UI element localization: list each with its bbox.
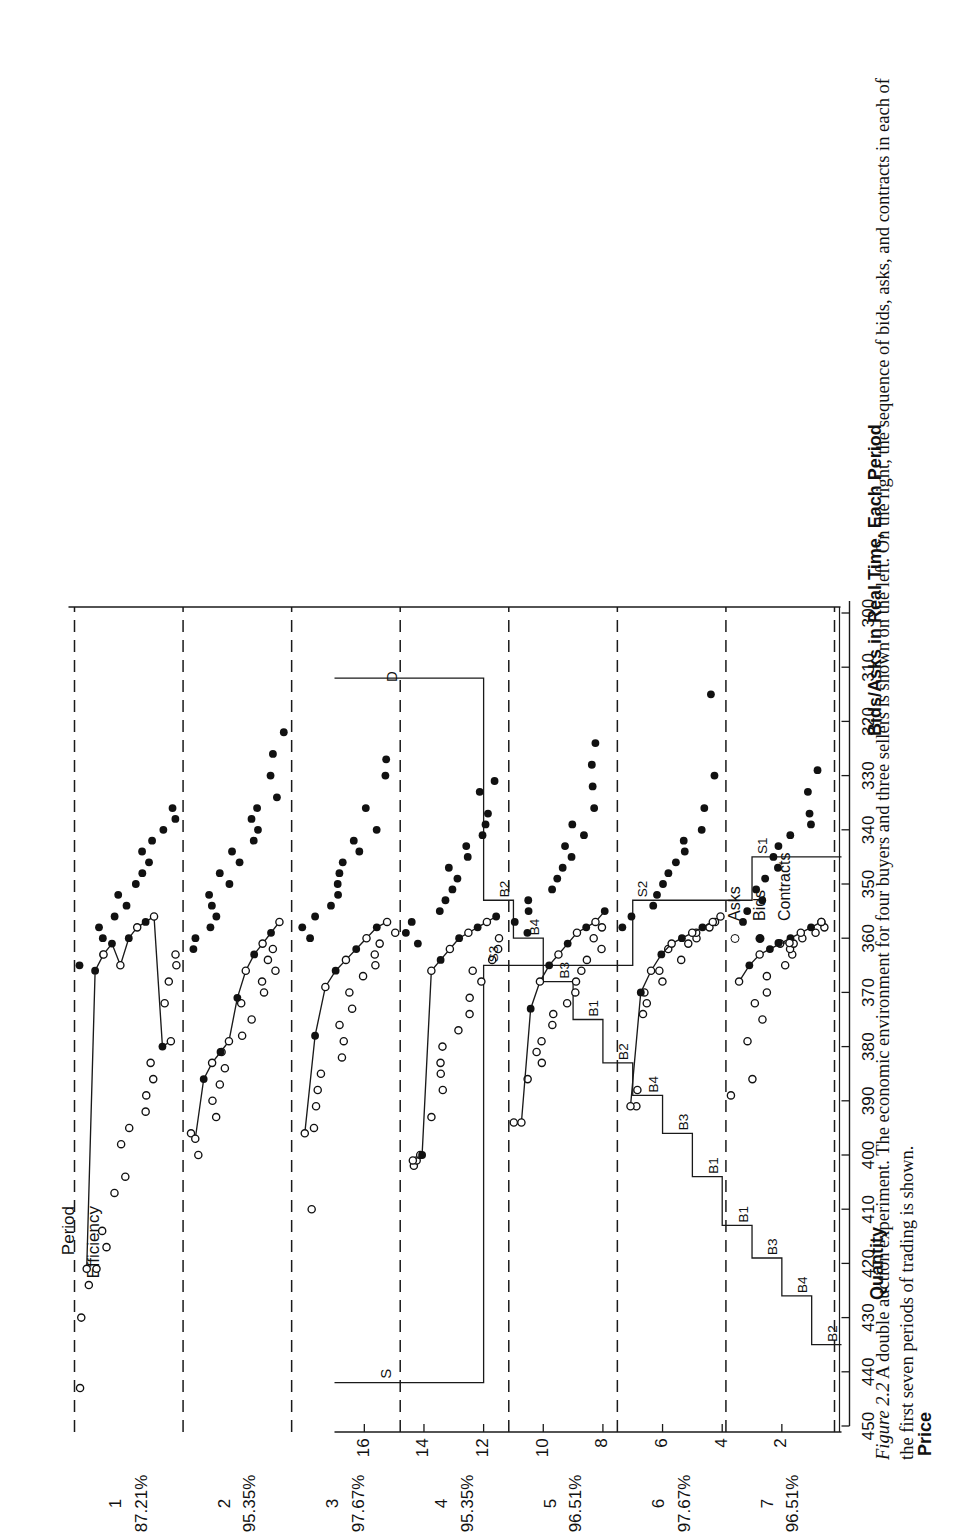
price-tick-label: 360 xyxy=(858,914,878,962)
ask-marker xyxy=(763,973,770,980)
demand-step-label: B3 xyxy=(764,1238,779,1255)
demand-step-label: B2 xyxy=(824,1325,839,1342)
bid-marker xyxy=(381,772,389,780)
contract-marker xyxy=(116,962,123,969)
bid-marker xyxy=(462,842,470,850)
contract-marker xyxy=(158,1043,166,1051)
contract-marker xyxy=(591,918,598,925)
bid-marker xyxy=(680,848,688,856)
contract-marker xyxy=(446,945,453,952)
bid-marker xyxy=(279,728,287,736)
filled-circle-icon xyxy=(755,934,764,943)
ask-marker xyxy=(439,1086,446,1093)
bid-marker xyxy=(707,690,715,698)
bid-marker xyxy=(114,891,122,899)
ask-marker xyxy=(469,967,476,974)
bid-marker xyxy=(138,869,146,877)
contract-marker xyxy=(545,961,553,969)
ask-marker xyxy=(76,1384,83,1391)
bid-marker xyxy=(448,886,456,894)
contract-marker xyxy=(526,1005,534,1013)
demand-step-label: B2 xyxy=(496,881,511,898)
price-tick-label: 350 xyxy=(858,860,878,908)
contract-marker xyxy=(331,967,339,975)
ask-marker xyxy=(171,951,178,958)
bid-marker xyxy=(273,793,281,801)
contract-marker xyxy=(536,978,543,985)
supply-step-label: S3 xyxy=(485,946,500,963)
bid-marker xyxy=(212,913,220,921)
ask-marker xyxy=(571,989,578,996)
ask-marker xyxy=(117,1141,124,1148)
contract-marker xyxy=(554,951,561,958)
price-tick-label: 370 xyxy=(858,968,878,1016)
ask-marker xyxy=(465,1010,472,1017)
bid-marker xyxy=(463,853,471,861)
bid-marker xyxy=(327,902,335,910)
connected-dots-icon xyxy=(774,925,798,947)
ask-marker xyxy=(269,945,276,952)
bid-marker xyxy=(481,820,489,828)
contract-marker xyxy=(582,923,590,931)
ask-marker xyxy=(149,1076,156,1083)
bid-marker xyxy=(524,907,532,915)
price-tick-label: 320 xyxy=(858,697,878,745)
bid-marker xyxy=(553,875,561,883)
ask-marker xyxy=(340,1038,347,1045)
price-tick-label: 310 xyxy=(858,643,878,691)
ask-marker xyxy=(391,929,398,936)
contract-marker xyxy=(250,951,258,959)
quantity-tick-label: 8 xyxy=(591,1438,611,1466)
contract-marker xyxy=(409,1157,416,1164)
bid-marker xyxy=(333,880,341,888)
ask-marker xyxy=(271,967,278,974)
bid-marker xyxy=(349,837,357,845)
ask-marker xyxy=(165,978,172,985)
bid-marker xyxy=(524,896,532,904)
ask-marker xyxy=(125,1124,132,1131)
ask-marker xyxy=(248,1016,255,1023)
quantity-tick-label: 4 xyxy=(711,1438,731,1466)
price-tick-label: 380 xyxy=(858,1023,878,1071)
ask-marker xyxy=(748,1076,755,1083)
contract-marker xyxy=(208,1059,215,1066)
bid-marker xyxy=(191,934,199,942)
ask-marker xyxy=(548,1021,555,1028)
bid-marker xyxy=(247,815,255,823)
ask-marker xyxy=(194,1151,201,1158)
bid-marker xyxy=(761,875,769,883)
ask-marker xyxy=(549,1010,556,1017)
ask-marker xyxy=(590,935,597,942)
ask-marker xyxy=(208,1097,215,1104)
bid-marker xyxy=(490,777,498,785)
bid-marker xyxy=(558,864,566,872)
bid-marker xyxy=(580,831,588,839)
bid-marker xyxy=(110,913,118,921)
bid-marker xyxy=(653,891,661,899)
ask-marker xyxy=(212,1113,219,1120)
ask-marker xyxy=(655,967,662,974)
bid-marker xyxy=(627,913,635,921)
ask-marker xyxy=(308,1206,315,1213)
bid-marker xyxy=(235,858,243,866)
contract-marker xyxy=(735,978,742,985)
bid-marker xyxy=(138,848,146,856)
bid-marker xyxy=(338,858,346,866)
contract-marker xyxy=(233,994,241,1002)
ask-marker xyxy=(371,962,378,969)
bid-marker xyxy=(189,945,197,953)
bid-marker xyxy=(298,923,306,931)
demand-step-label: B1 xyxy=(705,1157,720,1174)
contract-marker xyxy=(745,961,753,969)
price-tick-label: 410 xyxy=(858,1185,878,1233)
bid-marker xyxy=(813,766,821,774)
ask-marker xyxy=(142,1108,149,1115)
bid-marker xyxy=(786,831,794,839)
ask-marker xyxy=(751,1000,758,1007)
ask-marker xyxy=(477,978,484,985)
ask-marker xyxy=(743,1038,750,1045)
bid-marker xyxy=(561,842,569,850)
legend-label-contracts: Contracts xyxy=(775,853,793,921)
bid-marker xyxy=(131,880,139,888)
contract-marker xyxy=(383,918,390,925)
